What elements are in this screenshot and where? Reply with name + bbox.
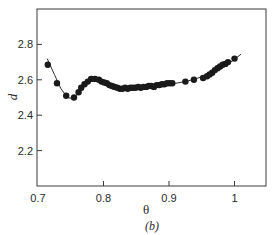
- data-point: [191, 77, 197, 83]
- data-point: [45, 62, 51, 68]
- data-point: [54, 80, 60, 86]
- x-tick-label: 0.9: [161, 192, 176, 204]
- y-axis-label: d: [5, 93, 20, 100]
- x-tick-label: 1: [231, 192, 237, 204]
- y-tick-label: 2.6: [18, 74, 33, 86]
- x-axis-label: θ: [143, 202, 149, 217]
- x-tick-label: 0.7: [30, 192, 45, 204]
- panel-label: (b): [145, 219, 159, 233]
- y-axis-ticks: 2.22.42.62.8: [18, 38, 42, 156]
- y-tick-label: 2.8: [18, 38, 33, 50]
- data-point: [231, 55, 237, 61]
- x-tick-label: 0.8: [96, 192, 111, 204]
- data-point: [169, 80, 175, 86]
- x-axis-ticks: 0.70.80.91: [30, 181, 237, 204]
- data-point: [182, 78, 188, 84]
- data-point: [225, 59, 231, 65]
- y-tick-label: 2.2: [18, 145, 33, 157]
- data-points-group: [45, 55, 238, 100]
- data-point: [71, 94, 77, 100]
- y-tick-label: 2.4: [18, 109, 33, 121]
- data-point: [63, 93, 69, 99]
- chart: 0.70.80.91 2.22.42.62.8 θ d (b): [0, 0, 275, 235]
